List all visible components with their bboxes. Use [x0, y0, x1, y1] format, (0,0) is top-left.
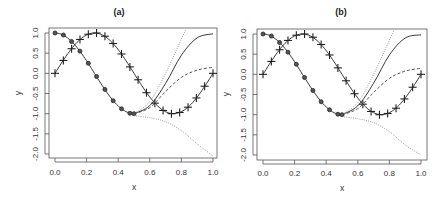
y-tick-label: -1.5	[239, 127, 248, 141]
circle-marker	[53, 31, 57, 35]
plus-marker	[51, 69, 59, 77]
circle-marker	[269, 34, 273, 38]
plus-marker	[417, 70, 425, 78]
plus-marker	[375, 111, 383, 119]
y-tick-label: 1.0	[31, 27, 40, 39]
series-line	[342, 68, 421, 114]
plus-marker	[142, 89, 150, 97]
circle-marker	[103, 87, 107, 91]
plus-marker	[201, 82, 209, 90]
circle-marker	[111, 99, 115, 103]
x-axis-label: x	[340, 183, 345, 193]
plus-marker	[384, 109, 392, 117]
series-line	[342, 117, 421, 155]
plus-marker	[350, 90, 358, 98]
x-tick-label: 0.6	[144, 168, 156, 177]
plus-marker	[209, 69, 217, 77]
y-axis-label: y	[221, 91, 231, 96]
y-tick-label: -0.5	[239, 87, 248, 101]
x-tick-label: 0.0	[49, 168, 61, 177]
y-axis: 1.00.50.0-0.5-1.0-1.5-2.0	[239, 28, 257, 162]
y-tick-label: -1.0	[239, 107, 248, 121]
y-tick-label: 1.0	[239, 28, 248, 40]
y-tick-label: -0.5	[31, 86, 40, 100]
plus-marker	[59, 56, 67, 64]
x-tick-label: 0.4	[321, 169, 333, 178]
series-line	[263, 34, 421, 115]
series-line	[342, 35, 421, 115]
x-tick-label: 0.2	[81, 168, 93, 177]
series-line	[134, 29, 186, 114]
plot-frame	[49, 28, 217, 158]
y-tick-label: 0.5	[239, 48, 248, 60]
plus-marker	[84, 30, 92, 38]
plus-marker	[134, 76, 142, 84]
x-tick-label: 0.8	[176, 168, 188, 177]
plus-marker	[93, 29, 101, 37]
plus-marker	[259, 70, 267, 78]
series-line	[134, 67, 213, 113]
y-tick-label: 0.0	[31, 67, 40, 79]
plus-marker	[326, 51, 334, 59]
circle-marker	[61, 33, 65, 37]
panel-a: (a)0.00.20.40.60.81.0x1.00.50.0-0.5-1.0-…	[13, 7, 219, 192]
y-tick-label: -1.0	[31, 106, 40, 120]
plus-marker	[292, 31, 300, 39]
x-tick-label: 0.0	[257, 169, 269, 178]
series-group	[259, 30, 425, 155]
x-tick-label: 0.4	[113, 168, 125, 177]
circle-marker	[303, 76, 307, 80]
plus-marker	[176, 108, 184, 116]
x-axis: 0.00.20.40.60.81.0	[49, 158, 219, 177]
plus-marker	[167, 110, 175, 118]
plus-marker	[400, 95, 408, 103]
circle-marker	[286, 50, 290, 54]
plus-marker	[342, 77, 350, 85]
circle-marker	[311, 88, 315, 92]
series-line	[134, 34, 213, 114]
y-axis-label: y	[13, 90, 23, 95]
series-group	[51, 29, 217, 156]
y-axis: 1.00.50.0-0.5-1.0-1.5-2.0	[31, 27, 49, 161]
circle-marker	[294, 62, 298, 66]
circle-marker	[319, 100, 323, 104]
panel-title: (b)	[335, 7, 347, 17]
plus-marker	[126, 63, 134, 71]
x-tick-label: 0.8	[384, 169, 396, 178]
x-tick-label: 0.6	[352, 169, 364, 178]
circle-marker	[78, 49, 82, 53]
panel-b: (b)0.00.20.40.60.81.0x1.00.50.0-0.5-1.0-…	[221, 7, 427, 193]
x-axis-label: x	[132, 182, 137, 192]
plus-marker	[118, 50, 126, 58]
plus-marker	[267, 57, 275, 65]
panel-title: (a)	[114, 7, 125, 17]
circle-marker	[128, 111, 132, 115]
x-axis: 0.00.20.40.60.81.0	[257, 160, 427, 178]
x-tick-label: 1.0	[207, 168, 219, 177]
x-tick-label: 1.0	[415, 169, 427, 178]
series-line	[55, 33, 134, 114]
plot-frame	[257, 29, 427, 160]
x-tick-label: 0.2	[289, 169, 301, 178]
series-line	[134, 116, 213, 156]
plus-marker	[409, 83, 417, 91]
plus-marker	[334, 64, 342, 72]
y-tick-label: 0.5	[31, 47, 40, 59]
plus-marker	[276, 46, 284, 54]
y-tick-label: -2.0	[31, 147, 40, 161]
circle-marker	[261, 32, 265, 36]
y-tick-label: -2.0	[239, 148, 248, 162]
circle-marker	[336, 112, 340, 116]
y-tick-label: 0.0	[239, 68, 248, 80]
circle-marker	[278, 40, 282, 44]
y-tick-label: -1.5	[31, 126, 40, 140]
plus-marker	[301, 30, 309, 38]
plus-marker	[192, 94, 200, 102]
circle-marker	[95, 75, 99, 79]
series-line	[342, 30, 394, 115]
circle-marker	[328, 108, 332, 112]
circle-marker	[70, 39, 74, 43]
circle-marker	[120, 107, 124, 111]
circle-marker	[86, 61, 90, 65]
plus-marker	[68, 45, 76, 53]
